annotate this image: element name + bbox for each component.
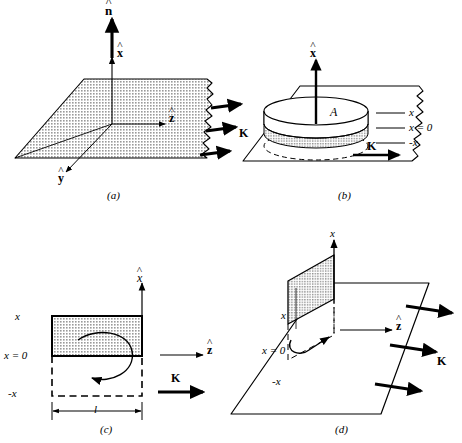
panel-d-caption: (d) [335,424,348,435]
panel-b-x-hat-label: ^x [310,47,316,59]
panel-a-y-hat-label: ^y [58,172,64,184]
panel-d-sheet-plane [231,283,429,414]
panel-c-x-hat-label: ^x [137,272,142,284]
panel-a-caption: (a) [107,190,120,201]
panel-c-current-label: K [171,372,180,384]
panel-d-surface-label: x = 0 [262,345,285,356]
panel-c-above-label: x [15,311,20,322]
panel-a-x-hat-label: ^x [117,47,123,59]
panel-c-caption: (c) [100,424,112,435]
panel-a-z-hat-label: ^z [169,112,174,124]
panel-d-z-hat-label: ^z [396,320,401,332]
panel-d-current-label: K [437,355,446,367]
panel-c-surface-label: x = 0 [4,350,27,361]
panel-c-z-hat-label: ^z [207,344,212,356]
figure-linework [0,0,462,443]
panel-d-above-label: x [281,310,286,321]
panel-d-graphics [231,240,452,414]
panel-a-normal-label: ^n [105,4,112,17]
panel-c-graphics [52,283,203,420]
panel-b-current-label: K [367,140,376,152]
panel-c-length-label: l [94,404,97,415]
panel-c-loop-lower [52,356,142,396]
panel-a-current-arrow-1 [211,104,241,108]
panel-b-above-label: x [409,107,414,118]
figure-root: ^n ^x ^z ^y K (a) ^x A x x = 0 -x K (b) … [0,0,462,443]
panel-d-below-label: -x [272,376,281,387]
panel-a-sheet-plane [15,79,213,158]
panel-a-graphics [15,19,241,172]
panel-b-caption: (b) [338,190,351,201]
panel-c-loop-upper [52,316,142,356]
panel-c-below-label: -x [8,388,17,399]
panel-b-below-label: -x [409,137,418,148]
panel-d-x-axis-label: x [330,228,335,239]
panel-b-area-label: A [330,106,337,118]
panel-b-surface-label: x = 0 [409,122,432,133]
panel-a-current-label: K [239,127,248,139]
